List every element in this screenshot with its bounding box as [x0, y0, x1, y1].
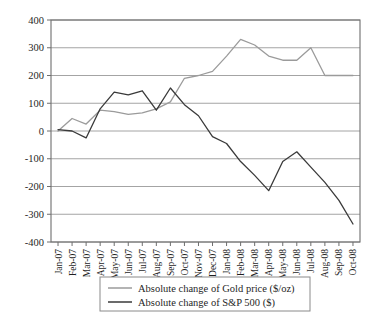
x-tick-label: Jun-08 — [292, 249, 302, 275]
series-line-1 — [58, 88, 353, 224]
chart-legend: Absolute change of Gold price ($/oz)Abso… — [100, 277, 310, 311]
x-tick-label: Dec-07 — [208, 249, 218, 277]
y-tick-label: 100 — [28, 98, 44, 109]
x-axis-tick-labels: Jan-07Feb-07Mar-07Apr-07May-07Jun-07Jul-… — [54, 249, 359, 279]
y-tick-label: -300 — [25, 209, 44, 220]
x-tick-label: Sep-07 — [166, 249, 176, 276]
x-axis-tick-marks — [58, 242, 353, 246]
y-tick-label: 300 — [28, 42, 44, 53]
y-tick-label: 400 — [28, 15, 44, 26]
legend-label-1: Absolute change of S&P 500 ($) — [138, 297, 275, 309]
line-chart: 4003002001000-100-200-300-400 Jan-07Feb-… — [0, 0, 385, 324]
x-tick-label: Mar-08 — [250, 249, 260, 278]
x-tick-label: Jun-07 — [124, 249, 134, 275]
x-tick-label: May-08 — [278, 249, 288, 279]
x-tick-label: Aug-07 — [152, 249, 162, 278]
y-tick-label: -200 — [25, 181, 44, 192]
x-tick-label: Aug-08 — [320, 249, 330, 278]
y-tick-label: 0 — [39, 126, 44, 137]
legend-label-0: Absolute change of Gold price ($/oz) — [138, 283, 295, 295]
y-tick-label: 200 — [28, 70, 44, 81]
x-tick-label: Feb-07 — [68, 249, 78, 276]
x-tick-label: Sep-08 — [334, 249, 344, 276]
x-tick-label: May-07 — [110, 249, 120, 279]
data-series — [58, 39, 353, 224]
x-tick-label: Oct-08 — [348, 249, 358, 276]
x-tick-label: Jan-08 — [222, 249, 232, 275]
x-tick-label: Apr-07 — [96, 249, 106, 276]
x-tick-label: Apr-08 — [264, 249, 274, 276]
x-tick-label: Jan-07 — [54, 249, 64, 275]
y-tick-label: -400 — [25, 237, 44, 248]
x-tick-label: Feb-08 — [236, 249, 246, 276]
series-line-0 — [58, 39, 353, 131]
x-tick-label: Mar-07 — [82, 249, 92, 278]
x-tick-label: Jul-07 — [138, 249, 148, 273]
x-tick-label: Oct-07 — [180, 249, 190, 276]
x-tick-label: Nov-07 — [194, 249, 204, 278]
y-axis-tick-marks — [47, 20, 51, 242]
y-tick-label: -100 — [25, 153, 44, 164]
chart-container: 4003002001000-100-200-300-400 Jan-07Feb-… — [0, 0, 385, 324]
x-tick-label: Jul-08 — [306, 249, 316, 273]
y-axis-tick-labels: 4003002001000-100-200-300-400 — [25, 15, 44, 248]
